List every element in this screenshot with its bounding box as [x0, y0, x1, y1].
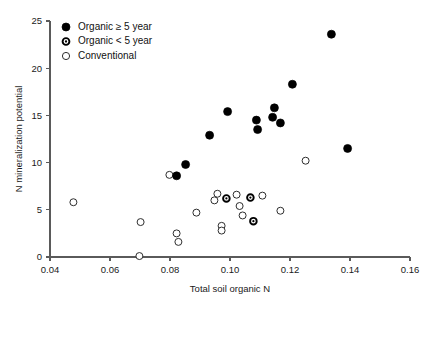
open-circle-marker — [137, 219, 144, 226]
dot-in-circle-core — [252, 220, 254, 222]
data-point-open-circle — [211, 197, 218, 204]
open-circle-marker — [175, 238, 182, 245]
y-tick-label: 0 — [37, 251, 42, 262]
filled-circle-marker — [173, 172, 181, 180]
legend-entry: Conventional — [62, 50, 136, 61]
x-tick-label: 0.04 — [41, 264, 60, 275]
data-point-filled-circle — [206, 131, 214, 139]
legend-entry: Organic < 5 year — [63, 35, 153, 46]
open-circle-marker — [211, 197, 218, 204]
legend-label: Organic ≥ 5 year — [78, 21, 153, 32]
filled-circle-marker — [224, 108, 232, 116]
x-tick-label: 0.08 — [161, 264, 180, 275]
data-point-filled-circle — [254, 126, 262, 134]
data-point-filled-circle — [173, 172, 181, 180]
data-point-open-circle — [166, 171, 173, 178]
filled-circle-marker — [276, 119, 284, 127]
filled-circle-marker — [288, 80, 296, 88]
open-circle-marker — [136, 253, 143, 260]
data-point-open-circle-legend — [62, 52, 69, 59]
data-point-open-circle — [137, 219, 144, 226]
data-point-dot-in-circle-legend — [63, 38, 70, 45]
legend: Organic ≥ 5 yearOrganic < 5 yearConventi… — [62, 21, 153, 61]
data-point-open-circle — [233, 191, 240, 198]
y-tick-label: 10 — [31, 157, 42, 168]
data-points — [70, 30, 352, 259]
data-point-open-circle — [218, 227, 225, 234]
data-point-open-circle — [175, 238, 182, 245]
x-tick-label: 0.16 — [401, 264, 420, 275]
data-point-open-circle — [239, 212, 246, 219]
data-point-filled-circle — [288, 80, 296, 88]
filled-circle-marker — [206, 131, 214, 139]
y-tick-label: 5 — [37, 204, 42, 215]
data-point-filled-circle — [327, 30, 335, 38]
open-circle-marker — [259, 192, 266, 199]
data-point-open-circle — [236, 203, 243, 210]
open-circle-marker — [302, 157, 309, 164]
filled-circle-marker — [182, 160, 190, 168]
open-circle-marker — [62, 52, 69, 59]
open-circle-marker — [239, 212, 246, 219]
filled-circle-marker — [327, 30, 335, 38]
series-organic-5-year — [173, 30, 352, 180]
data-point-open-circle — [173, 230, 180, 237]
x-tick-label: 0.10 — [221, 264, 240, 275]
data-point-dot-in-circle — [223, 195, 230, 202]
data-point-open-circle — [136, 253, 143, 260]
data-point-filled-circle-legend — [62, 23, 70, 31]
y-tick-label: 25 — [31, 15, 42, 26]
open-circle-marker — [166, 171, 173, 178]
data-point-filled-circle — [276, 119, 284, 127]
open-circle-marker — [214, 190, 221, 197]
filled-circle-marker — [344, 144, 352, 152]
data-point-open-circle — [193, 209, 200, 216]
plot-svg: 05101520250.040.060.080.100.120.140.16 T… — [0, 0, 439, 345]
data-point-dot-in-circle — [250, 218, 257, 225]
open-circle-marker — [233, 191, 240, 198]
dot-in-circle-core — [249, 196, 251, 198]
data-point-open-circle — [277, 207, 284, 214]
series-conventional — [70, 157, 309, 259]
data-point-filled-circle — [344, 144, 352, 152]
data-point-open-circle — [259, 192, 266, 199]
open-circle-marker — [70, 199, 77, 206]
filled-circle-marker — [62, 23, 70, 31]
filled-circle-marker — [252, 116, 260, 124]
x-tick-label: 0.12 — [281, 264, 300, 275]
data-point-filled-circle — [252, 116, 260, 124]
data-point-dot-in-circle — [247, 194, 254, 201]
legend-label: Conventional — [78, 50, 136, 61]
x-tick-label: 0.14 — [341, 264, 360, 275]
dot-in-circle-core — [225, 197, 227, 199]
open-circle-marker — [193, 209, 200, 216]
data-point-filled-circle — [224, 108, 232, 116]
data-point-filled-circle — [270, 104, 278, 112]
data-point-filled-circle — [269, 113, 277, 121]
data-point-filled-circle — [182, 160, 190, 168]
y-tick-label: 20 — [31, 63, 42, 74]
x-axis-title: Total soil organic N — [190, 283, 270, 294]
legend-label: Organic < 5 year — [78, 35, 153, 46]
y-axis-title: N mineralization potential — [13, 86, 24, 193]
filled-circle-marker — [270, 104, 278, 112]
dot-in-circle-core — [65, 40, 67, 42]
open-circle-marker — [173, 230, 180, 237]
x-tick-label: 0.06 — [101, 264, 120, 275]
data-point-open-circle — [302, 157, 309, 164]
axis-titles: Total soil organic NN mineralization pot… — [13, 86, 270, 294]
y-tick-label: 15 — [31, 110, 42, 121]
open-circle-marker — [277, 207, 284, 214]
filled-circle-marker — [269, 113, 277, 121]
data-point-open-circle — [214, 190, 221, 197]
open-circle-marker — [218, 227, 225, 234]
filled-circle-marker — [254, 126, 262, 134]
data-point-open-circle — [70, 199, 77, 206]
open-circle-marker — [236, 203, 243, 210]
legend-entry: Organic ≥ 5 year — [62, 21, 153, 32]
scatter-plot-figure: 05101520250.040.060.080.100.120.140.16 T… — [0, 0, 439, 345]
